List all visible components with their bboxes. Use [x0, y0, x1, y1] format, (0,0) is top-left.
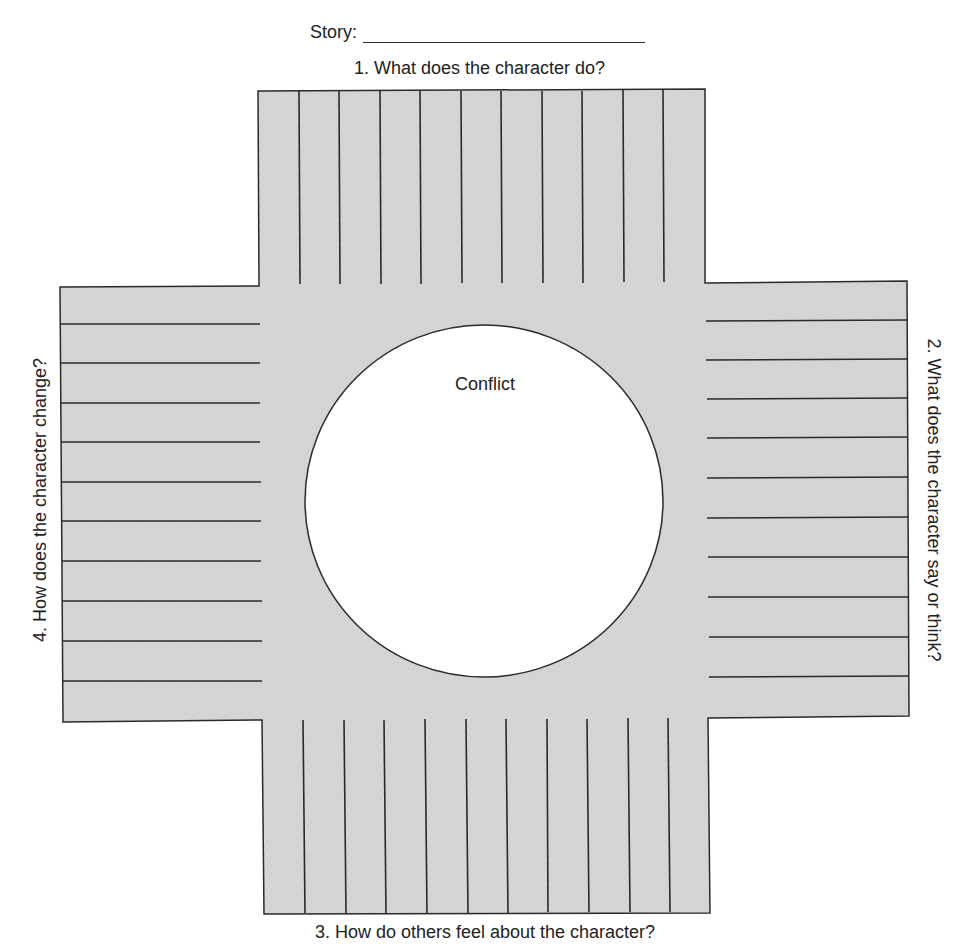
conflict-label: Conflict [410, 374, 560, 395]
question-bottom: 3. How do others feel about the characte… [0, 922, 959, 943]
character-map-diagram [0, 0, 959, 949]
question-left: 4. How does the character change? [30, 358, 51, 642]
question-right: 2. What does the character say or think? [923, 338, 944, 661]
